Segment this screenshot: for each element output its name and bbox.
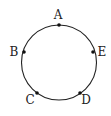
point-label: D [81, 93, 91, 107]
point-label: E [98, 45, 107, 59]
point-dot [57, 23, 61, 27]
circle [22, 25, 97, 100]
point-dot [35, 91, 39, 95]
point-b: B [10, 45, 26, 59]
point-label: C [25, 93, 34, 107]
circle-diagram: ABECD [0, 0, 111, 116]
point-d: D [78, 91, 91, 107]
point-c: C [25, 91, 38, 107]
point-a: A [53, 8, 63, 27]
diagram-canvas: ABECD [0, 0, 111, 116]
point-label: B [10, 45, 19, 59]
point-dot [91, 50, 95, 54]
point-dot [22, 50, 26, 54]
point-label: A [53, 8, 63, 22]
points-layer: ABECD [10, 8, 107, 107]
